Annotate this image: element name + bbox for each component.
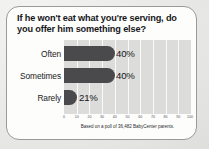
bar-rows: Often 40% Sometimes 40% Rarely 21%	[7, 40, 197, 114]
x-tick: 50	[126, 114, 130, 120]
bar-often	[64, 46, 115, 61]
x-tick: 70	[151, 114, 155, 120]
poll-chart-screenshot: If he won't eat what you're serving, do …	[0, 0, 209, 149]
bar-sometimes	[64, 68, 115, 83]
x-axis: 0 10 20 30 40 50 60 70 80 90 100	[64, 114, 191, 123]
bar-chart: Often 40% Sometimes 40% Rarely 21% 0 1	[7, 40, 197, 140]
category-label-sometimes: Sometimes	[7, 70, 61, 82]
chart-footnote: Based on a poll of 36,482 BabyCenter par…	[64, 123, 191, 130]
category-label-rarely: Rarely	[7, 92, 61, 104]
x-tick: 30	[100, 114, 104, 120]
value-label-often: 40%	[116, 47, 135, 60]
category-label-often: Often	[7, 48, 61, 60]
x-tick: 40	[113, 114, 117, 120]
x-tick: 90	[176, 114, 180, 120]
x-tick: 0	[63, 114, 65, 120]
bar-rarely	[64, 90, 77, 105]
bar-row-often: Often 40%	[7, 46, 197, 62]
bar-row-rarely: Rarely 21%	[7, 90, 197, 106]
page-title: If he won't eat what you're serving, do …	[17, 13, 189, 35]
x-tick: 80	[164, 114, 168, 120]
x-tick: 100	[187, 114, 193, 120]
value-label-rarely: 21%	[79, 91, 98, 104]
x-tick: 10	[75, 114, 79, 120]
x-tick: 20	[87, 114, 91, 120]
poll-card: If he won't eat what you're serving, do …	[6, 6, 197, 140]
x-tick: 60	[138, 114, 142, 120]
bar-row-sometimes: Sometimes 40%	[7, 68, 197, 84]
value-label-sometimes: 40%	[116, 69, 135, 82]
